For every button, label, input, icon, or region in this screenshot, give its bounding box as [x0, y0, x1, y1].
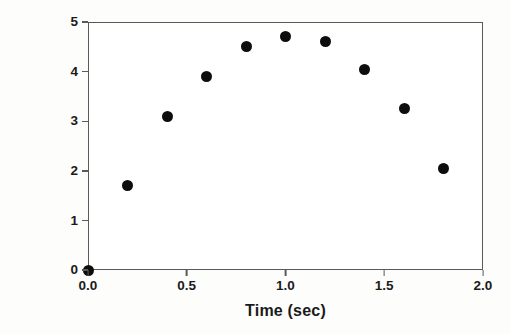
y-axis-tick-mark [82, 71, 88, 72]
y-axis: 012345 [0, 22, 88, 270]
x-axis-tick: 0.5 [177, 270, 196, 293]
x-axis-tick-mark [285, 270, 286, 276]
x-axis-tick: 1.5 [375, 270, 394, 293]
y-axis-tick-label: 2 [70, 164, 82, 178]
x-axis-tick-mark [87, 270, 88, 276]
y-axis-tick-mark [82, 121, 88, 122]
x-axis-tick: 1.0 [276, 270, 295, 293]
y-axis-tick-label: 5 [70, 15, 82, 29]
x-axis-tick-label: 2.0 [474, 279, 493, 293]
x-axis-tick-label: 1.5 [375, 279, 394, 293]
x-axis-tick-label: 0.0 [79, 279, 98, 293]
x-axis-tick: 2.0 [474, 270, 493, 293]
x-axis-tick-mark [482, 270, 483, 276]
y-axis-tick-mark [82, 170, 88, 171]
x-axis-tick-label: 1.0 [276, 279, 295, 293]
x-axis-title: Time (sec) [88, 302, 483, 320]
y-axis-title: Height (m) [14, 0, 40, 48]
y-axis-tick-mark [82, 21, 88, 22]
y-axis-tick-label: 4 [70, 65, 82, 79]
y-axis-tick-label: 3 [70, 114, 82, 128]
x-axis-tick-mark [384, 270, 385, 276]
x-axis-tick: 0.0 [79, 270, 98, 293]
x-axis-tick-label: 0.5 [177, 279, 196, 293]
chart-figure: 012345 Height (m) 0.00.51.01.52.0 Time (… [0, 0, 510, 334]
x-axis: 0.00.51.01.52.0 [88, 270, 483, 300]
y-axis-tick-mark [82, 220, 88, 221]
y-axis-tick-label: 1 [70, 214, 82, 228]
x-axis-tick-mark [186, 270, 187, 276]
plot-area-frame [88, 22, 483, 270]
